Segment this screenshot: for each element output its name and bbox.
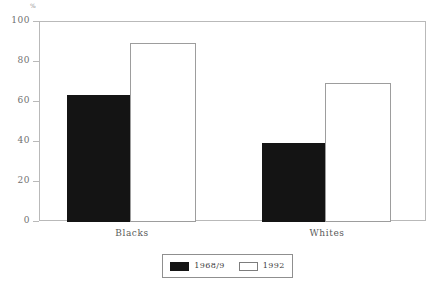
plot-area [39, 21, 426, 221]
y-tick-label: 100 [11, 15, 30, 26]
legend-swatch-icon [239, 262, 258, 271]
y-tick-label: 0 [24, 215, 30, 226]
bar-chart: % 100 80 60 40 20 0 Blacks Whites 19 [0, 0, 441, 295]
y-tick-label: 60 [18, 95, 30, 106]
legend-entry-1968-9: 1968/9 [170, 261, 225, 271]
category-label-blacks: Blacks [100, 227, 164, 239]
legend: 1968/9 1992 [162, 254, 293, 278]
y-tick-mark [33, 221, 39, 222]
y-axis-unit-label: % [30, 2, 36, 10]
y-tick-label: 80 [18, 55, 30, 66]
legend-label: 1968/9 [194, 261, 225, 271]
y-tick-label: 20 [18, 175, 30, 186]
y-tick-label: 40 [18, 135, 30, 146]
legend-swatch-icon [170, 262, 189, 271]
category-label-whites: Whites [295, 227, 359, 239]
legend-entry-1992: 1992 [239, 261, 285, 271]
legend-label: 1992 [263, 261, 285, 271]
